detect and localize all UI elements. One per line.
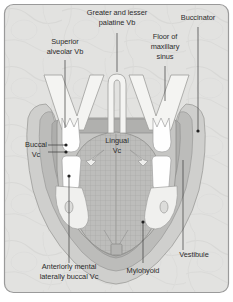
floor-of-maxillary-sinus-label-line-1: Floor of (153, 32, 179, 41)
leader-buccal-vc-lower-endpoint (64, 150, 67, 153)
floor-of-maxillary-sinus-label-line-3: sinus (156, 52, 173, 61)
greater-and-lesser-palatine-vb-label-line-2: palatine Vb (99, 18, 135, 27)
anatomy-figure: Superioralveolar VbGreater and lesserpal… (0, 0, 233, 302)
mylohyoid-label-line-1: Mylohyoid (127, 266, 160, 275)
vestibule-label: Vestibule (179, 250, 209, 259)
buccinator-label-line-1: Buccinator (181, 13, 216, 22)
lingual-vc-label-line-1: Lingual (105, 136, 129, 145)
buccal-vc-label-line-1: Buccal (25, 140, 47, 149)
lingual-vc-label-line-2: Vc (113, 146, 122, 155)
superior-alveolar-vb-label: Superioralveolar Vb (47, 37, 83, 56)
superior-alveolar-vb-label-line-2: alveolar Vb (47, 47, 83, 56)
greater-and-lesser-palatine-vb-label-line-1: Greater and lesser (87, 8, 148, 17)
floor-of-maxillary-sinus-label-line-2: maxillary (151, 42, 180, 51)
vestibule-label-line-1: Vestibule (179, 250, 209, 259)
anteriorly-mental-laterally-buccal-vc-label-line-1: Anteriorly mental (42, 262, 97, 271)
leader-buccinator-endpoint (196, 129, 199, 132)
leader-anteriorly-mental-laterally-buccal-vc-endpoint (67, 174, 70, 177)
buccinator-label: Buccinator (181, 13, 216, 22)
mylohyoid-label: Mylohyoid (127, 266, 160, 275)
anatomy-diagram-svg: Superioralveolar VbGreater and lesserpal… (0, 0, 233, 302)
buccal-vc-label-line-2: Vc (32, 150, 41, 159)
superior-alveolar-vb-label-line-1: Superior (51, 37, 79, 46)
leader-buccal-vc-upper-endpoint (64, 143, 67, 146)
leader-mylohyoid-endpoint (141, 220, 144, 223)
anteriorly-mental-laterally-buccal-vc-label: Anteriorly mentallaterally buccal Vc (40, 262, 99, 281)
mental-foramen-right (160, 201, 168, 213)
anteriorly-mental-laterally-buccal-vc-label-line-2: laterally buccal Vc (40, 272, 99, 281)
symphysis-marker (111, 244, 122, 255)
